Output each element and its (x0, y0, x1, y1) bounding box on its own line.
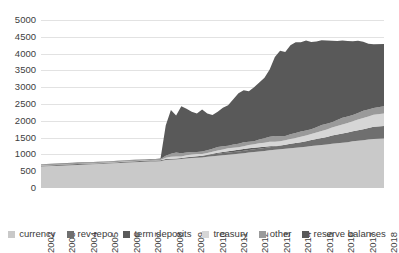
area-series-group (41, 20, 384, 188)
y-axis: 0500100015002000250030003500400045005000 (0, 0, 38, 200)
legend-item-currency[interactable]: currency (8, 229, 55, 239)
legend-item-rev-repo[interactable]: rev repo (67, 229, 113, 239)
legend-swatch-icon (302, 231, 309, 238)
legend-item-label: other (270, 229, 292, 239)
y-axis-tick-label: 3500 (15, 65, 36, 75)
plot-wrapper: 0500100015002000250030003500400045005000 (0, 0, 394, 200)
y-axis-tick-label: 4500 (15, 32, 36, 42)
y-axis-tick-label: 1500 (15, 133, 36, 143)
legend-swatch-icon (123, 231, 130, 238)
legend-item-label: rev repo (78, 229, 113, 239)
plot-area (41, 20, 384, 188)
y-axis-tick-label: 5000 (15, 15, 36, 25)
legend-item-other[interactable]: other (259, 229, 292, 239)
y-axis-tick-label: 3000 (15, 82, 36, 92)
legend-swatch-icon (67, 231, 74, 238)
legend-item-reserve-balances[interactable]: reserve balances (302, 229, 385, 239)
legend-item-label: reserve balances (313, 229, 385, 239)
legend-item-label: currency (19, 229, 55, 239)
y-axis-tick-label: 2000 (15, 116, 36, 126)
chart-legend: currencyrev repoterm depositstreasuryoth… (0, 226, 394, 242)
legend-item-label: treasury (213, 229, 247, 239)
legend-item-term-deposits[interactable]: term deposits (123, 229, 191, 239)
legend-item-treasury[interactable]: treasury (202, 229, 247, 239)
y-axis-tick-label: 1000 (15, 149, 36, 159)
legend-item-label: term deposits (134, 229, 191, 239)
y-axis-tick-label: 0 (31, 183, 36, 193)
legend-swatch-icon (8, 231, 15, 238)
y-axis-tick-label: 2500 (15, 99, 36, 109)
y-axis-tick-label: 4000 (15, 49, 36, 59)
x-axis: 2002200320042005200620072008200920102011… (41, 190, 384, 224)
legend-swatch-icon (259, 231, 266, 238)
legend-swatch-icon (202, 231, 209, 238)
y-axis-tick-label: 500 (20, 166, 36, 176)
